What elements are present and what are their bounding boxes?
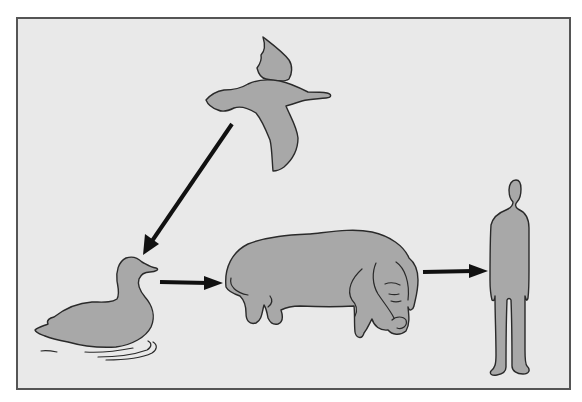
water-ripple	[41, 351, 57, 352]
arrow-pig-to-human	[423, 264, 488, 278]
pig-figure	[226, 230, 418, 337]
arrow-head-icon	[469, 264, 488, 278]
transmission-diagram	[0, 0, 582, 402]
pig-wrinkle	[389, 294, 399, 295]
water-ripple	[85, 348, 133, 352]
arrow-head-icon	[204, 276, 223, 290]
arrow-bird-to-duck	[143, 124, 232, 255]
arrow-shaft	[160, 282, 208, 283]
arrow-shaft	[152, 124, 232, 241]
human-figure	[490, 180, 529, 375]
swimming-duck-figure	[35, 257, 158, 360]
arrow-shaft	[423, 271, 473, 272]
arrow-duck-to-pig	[160, 276, 223, 290]
flying-bird-figure	[206, 37, 331, 171]
